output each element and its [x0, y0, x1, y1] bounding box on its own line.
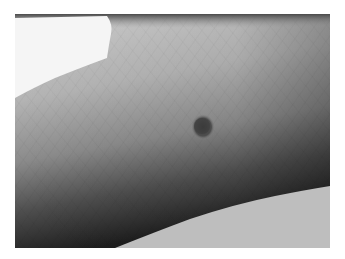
photo-canvas: [15, 14, 330, 248]
skin-lesion-photo: [15, 14, 330, 248]
